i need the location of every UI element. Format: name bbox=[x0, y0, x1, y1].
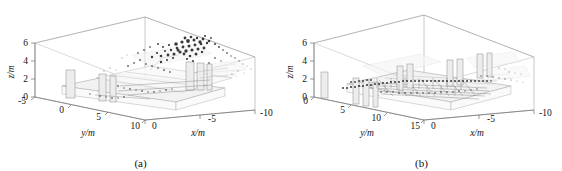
panel-b-x-tick-1: -5 bbox=[487, 114, 495, 124]
figure-container: 6 4 2 0 z/m -5 0 5 10 y/m bbox=[0, 0, 562, 171]
panel-b-y-tick-0: 0 bbox=[303, 96, 308, 106]
panel-b-y-tick-1: 5 bbox=[340, 105, 345, 115]
panel-a-caption: (a) bbox=[0, 157, 281, 169]
panel-b-z-tick-2: 4 bbox=[302, 56, 307, 66]
panel-b-x-tick-2: -10 bbox=[539, 108, 552, 118]
panel-a-y-axis-label: y/m bbox=[80, 128, 95, 138]
panel-b-z-tick-1: 2 bbox=[302, 74, 307, 84]
panel-a-y-tick-0: -5 bbox=[18, 96, 26, 106]
panel-a-z-axis: 6 4 2 0 z/m bbox=[6, 38, 35, 102]
panel-b-y-tick-2: 10 bbox=[372, 113, 382, 123]
panel-a-z-tick-2: 4 bbox=[23, 56, 28, 66]
panel-a-x-tick-1: -5 bbox=[208, 114, 216, 124]
panel-a-z-axis-label: z/m bbox=[6, 65, 16, 79]
panel-a-z-tick-3: 6 bbox=[23, 38, 28, 48]
panel-b-y-tick-3: 15 bbox=[411, 121, 421, 131]
panel-a-y-tick-2: 5 bbox=[96, 112, 101, 122]
panel-b-x-axis: 0 -5 -10 x/m bbox=[424, 108, 552, 138]
panel-a-x-tick-0: 0 bbox=[152, 121, 157, 131]
panel-a-y-tick-1: 0 bbox=[59, 105, 64, 115]
panel-b: 6 4 2 0 z/m 0 5 10 15 y/m bbox=[281, 0, 562, 171]
panel-a-x-tick-2: -10 bbox=[260, 108, 273, 118]
panel-a: 6 4 2 0 z/m -5 0 5 10 y/m bbox=[0, 0, 281, 171]
panel-b-caption: (b) bbox=[281, 157, 562, 169]
panel-a-z-tick-1: 2 bbox=[23, 74, 28, 84]
panel-a-x-axis: 0 -5 -10 x/m bbox=[145, 108, 273, 138]
panel-b-z-tick-3: 6 bbox=[302, 38, 307, 48]
panel-b-z-axis: 6 4 2 0 z/m bbox=[285, 38, 314, 102]
panel-b-plot: 6 4 2 0 z/m 0 5 10 15 y/m bbox=[281, 0, 562, 171]
panel-b-z-axis-label: z/m bbox=[285, 65, 295, 79]
panel-b-y-axis-label: y/m bbox=[359, 128, 374, 138]
panel-a-y-tick-3: 10 bbox=[131, 121, 141, 131]
panel-a-x-axis-label: x/m bbox=[190, 128, 205, 138]
panel-b-x-tick-0: 0 bbox=[431, 121, 436, 131]
panel-b-x-axis-label: x/m bbox=[469, 128, 484, 138]
panel-a-plot: 6 4 2 0 z/m -5 0 5 10 y/m bbox=[0, 0, 281, 171]
